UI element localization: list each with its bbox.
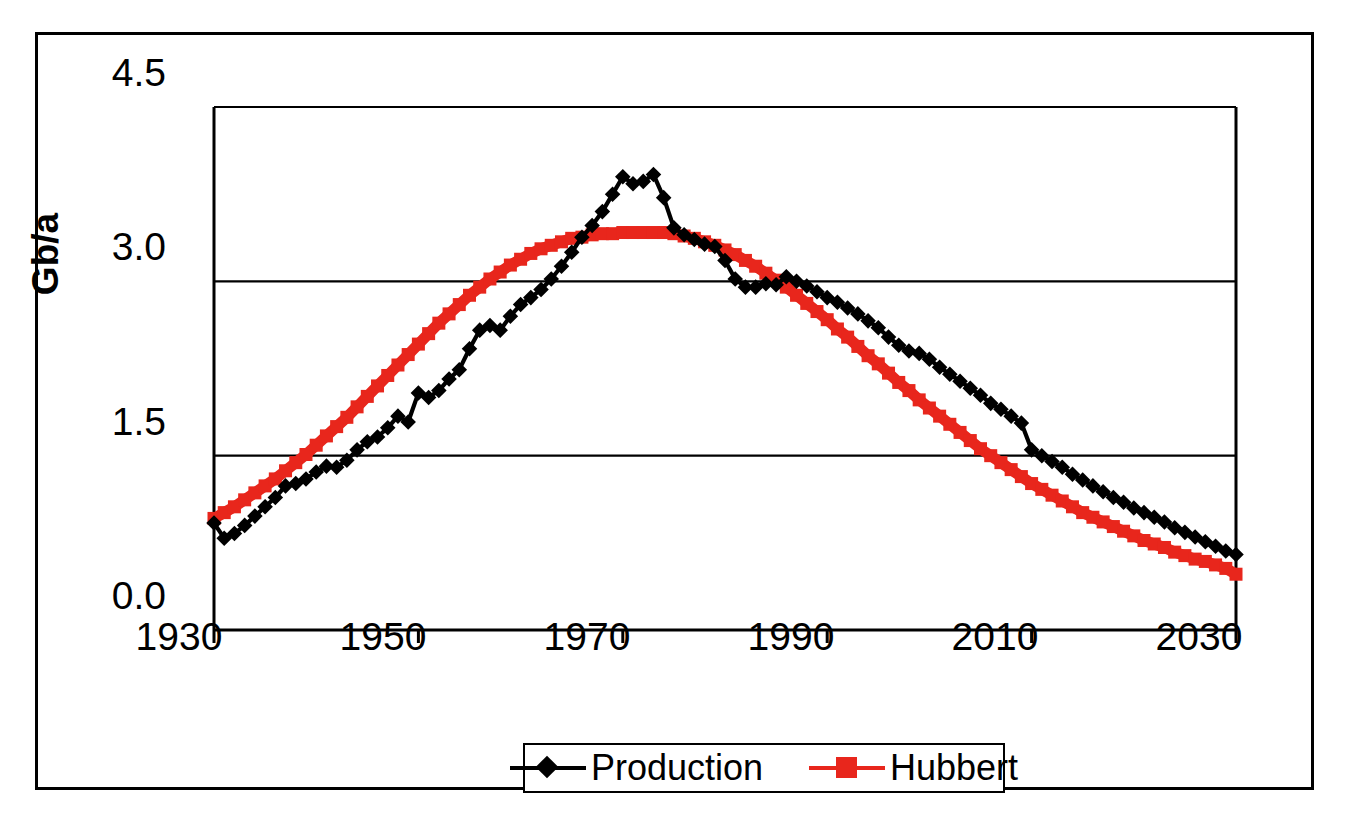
legend-label-production: Production xyxy=(591,750,763,786)
chart-plot-svg xyxy=(214,107,1236,630)
chart-figure: Gb/a 4.5 3.0 1.5 0.0 1930 1950 1970 1990… xyxy=(0,0,1346,819)
series-hubbert xyxy=(208,226,1243,581)
plot-area xyxy=(214,107,1236,630)
legend-entry-hubbert: Hubbert xyxy=(809,750,1018,786)
square-marker-icon xyxy=(836,757,857,778)
y-tick-label-3-0: 3.0 xyxy=(46,227,166,266)
y-tick-label-0-0: 0.0 xyxy=(46,576,166,615)
legend-entry-production: Production xyxy=(510,750,763,786)
series-production xyxy=(206,167,1244,563)
chart-legend: Production Hubbert xyxy=(523,743,1005,793)
figure-border: Gb/a 4.5 3.0 1.5 0.0 1930 1950 1970 1990… xyxy=(35,32,1314,790)
hubbert-marker-icon xyxy=(809,757,885,779)
y-tick-label-4-5: 4.5 xyxy=(46,53,166,92)
legend-label-hubbert: Hubbert xyxy=(890,750,1018,786)
production-marker-icon xyxy=(510,757,586,779)
diamond-marker-icon xyxy=(536,756,559,779)
y-tick-label-1-5: 1.5 xyxy=(46,402,166,441)
gridlines xyxy=(214,107,1236,630)
axis-lines xyxy=(214,107,1236,630)
